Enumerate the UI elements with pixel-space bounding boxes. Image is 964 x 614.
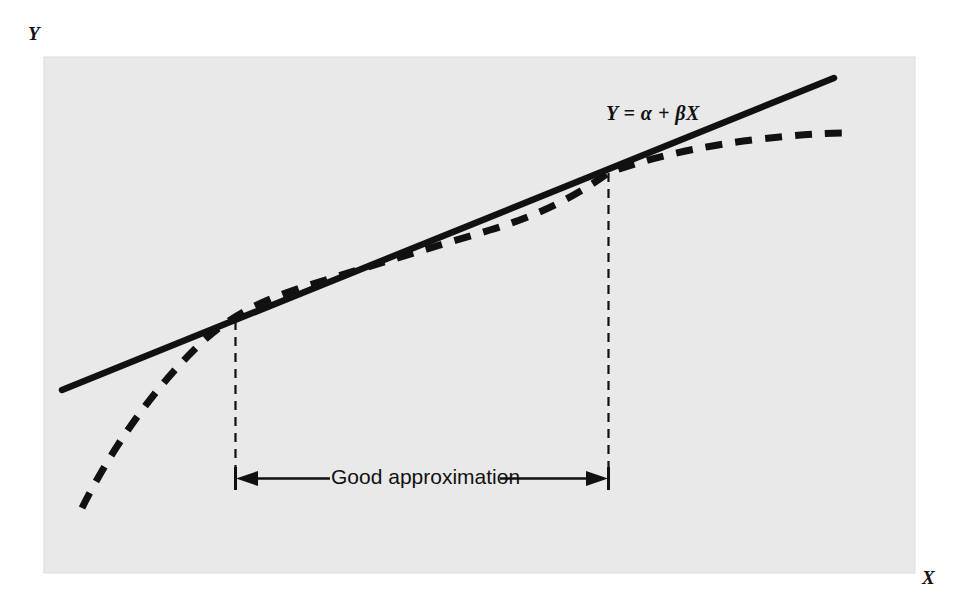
plot-panel xyxy=(44,57,915,573)
good-approximation-label: Good approximation xyxy=(331,466,520,487)
figure-root: Y X Y = α + βX Good approximation xyxy=(0,0,964,614)
plot-canvas xyxy=(0,0,964,614)
equation-label: Y = α + βX xyxy=(606,103,700,123)
x-axis-label: X xyxy=(922,568,935,587)
y-axis-label: Y xyxy=(28,24,40,43)
